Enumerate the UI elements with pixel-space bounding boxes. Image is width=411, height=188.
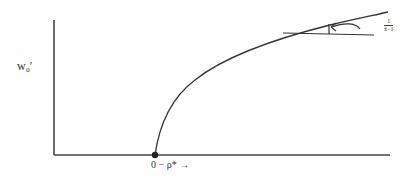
x-axis-label: 0 − ρ* →: [151, 159, 189, 170]
curved-arrow-icon: [332, 24, 360, 29]
slope-denominator: x̄−1: [384, 26, 393, 33]
slope-numerator: 1: [384, 18, 393, 26]
curve: [155, 12, 388, 155]
slope-label: 1 x̄−1: [384, 18, 393, 33]
origin-point: [152, 152, 158, 158]
y-axis-label: w₀′: [17, 59, 32, 74]
diagram-canvas: [0, 0, 411, 188]
